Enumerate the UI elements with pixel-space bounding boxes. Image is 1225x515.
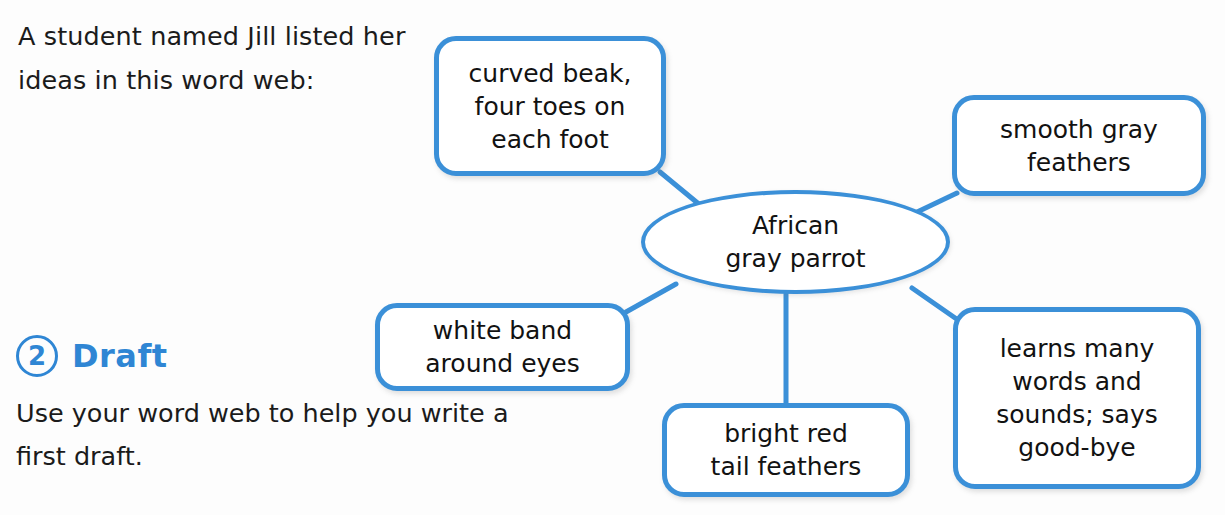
node-line: words and <box>996 365 1157 398</box>
worksheet-page: A student named Jill listed her ideas in… <box>0 0 1225 515</box>
web-node-learns-words[interactable]: learns many words and sounds; says good-… <box>953 307 1201 489</box>
connector-smooth-gray-feathers <box>915 193 957 213</box>
node-line: African <box>725 209 865 242</box>
node-line: smooth gray <box>1000 113 1158 146</box>
web-node-curved-beak[interactable]: curved beak, four toes on each foot <box>434 36 666 176</box>
word-web-diagram: curved beak, four toes on each foot smoo… <box>0 0 1225 515</box>
node-line: gray parrot <box>725 242 865 275</box>
connector-white-band <box>626 284 676 312</box>
web-node-learns-words-label: learns many words and sounds; says good-… <box>996 332 1157 464</box>
node-line: good-bye <box>996 431 1157 464</box>
web-node-smooth-gray-feathers[interactable]: smooth gray feathers <box>952 95 1206 196</box>
web-node-curved-beak-label: curved beak, four toes on each foot <box>469 57 632 156</box>
web-node-white-band-label: white band around eyes <box>425 314 579 380</box>
node-line: learns many <box>996 332 1157 365</box>
web-node-center-label: African gray parrot <box>725 209 865 275</box>
node-line: around eyes <box>425 347 579 380</box>
node-line: bright red <box>711 417 862 450</box>
connector-curved-beak <box>660 172 700 205</box>
connector-learns-words <box>912 288 958 320</box>
web-node-bright-red-tail-label: bright red tail feathers <box>711 417 862 483</box>
node-line: curved beak, <box>469 57 632 90</box>
node-line: each foot <box>469 123 632 156</box>
web-node-white-band[interactable]: white band around eyes <box>375 303 630 391</box>
web-node-center-african-gray-parrot[interactable]: African gray parrot <box>641 190 950 294</box>
node-line: four toes on <box>469 90 632 123</box>
node-line: tail feathers <box>711 450 862 483</box>
node-line: white band <box>425 314 579 347</box>
web-node-bright-red-tail[interactable]: bright red tail feathers <box>662 403 910 497</box>
node-line: feathers <box>1000 146 1158 179</box>
web-node-smooth-gray-feathers-label: smooth gray feathers <box>1000 113 1158 179</box>
node-line: sounds; says <box>996 398 1157 431</box>
